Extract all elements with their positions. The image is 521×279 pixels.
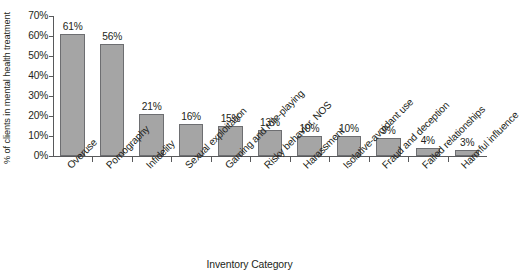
bar [100,44,124,156]
y-axis-tick-label: 70% [14,11,48,21]
bar-value-label: 56% [92,31,132,42]
bar [60,34,84,156]
y-axis-tick-label: 60% [14,31,48,41]
y-axis-tick-label: 20% [14,111,48,121]
bar-value-label: 16% [171,111,211,122]
bar-value-label: 61% [53,21,93,32]
y-axis-tick-labels: 70%60%50%40%30%20%10%0% [14,0,48,279]
x-axis-title: Inventory Category [0,258,499,271]
y-axis-tick-label: 10% [14,131,48,141]
y-axis-tick-label: 50% [14,51,48,61]
y-axis-tick-label: 40% [14,71,48,81]
y-axis-tick-label: 0% [14,151,48,161]
y-axis-title: % of clients in mental health treatment [0,0,14,176]
y-axis-tick-label: 30% [14,91,48,101]
x-axis-category-labels: OverusePornographyInfidelitySexual explo… [53,157,499,257]
bar-value-label: 21% [132,101,172,112]
